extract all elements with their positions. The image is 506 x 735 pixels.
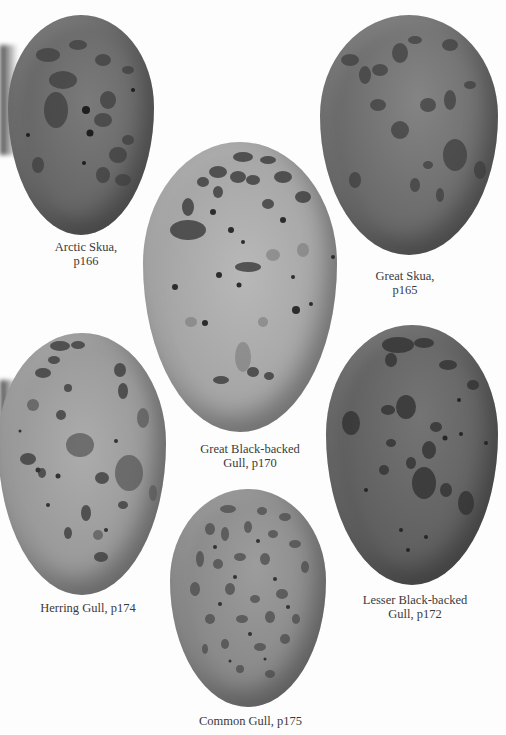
- caption-common-gull: Common Gull, p175: [188, 714, 313, 728]
- egg-great-skua: [320, 15, 498, 255]
- caption-arctic-skua: Arctic Skua, p166: [41, 240, 131, 268]
- caption-line: Gull, p170: [190, 456, 310, 470]
- caption-line: Arctic Skua,: [41, 240, 131, 254]
- caption-line: Common Gull, p175: [188, 714, 313, 728]
- caption-lesser-black-backed-gull: Lesser Black-backed Gull, p172: [350, 593, 480, 621]
- egg-common-gull: [170, 489, 326, 707]
- caption-line: Gull, p172: [350, 607, 480, 621]
- egg-markings: [0, 333, 166, 595]
- egg-lesser-black-backed-gull: [326, 325, 498, 585]
- caption-herring-gull: Herring Gull, p174: [28, 601, 148, 615]
- egg-great-black-backed-gull: [143, 142, 337, 432]
- egg-markings: [170, 489, 326, 707]
- caption-line: Herring Gull, p174: [28, 601, 148, 615]
- egg-markings: [8, 15, 154, 235]
- egg-herring-gull: [0, 333, 166, 595]
- caption-great-skua: Great Skua, p165: [355, 269, 455, 297]
- egg-plate: Arctic Skua, p166 Great Skua, p165: [0, 0, 506, 735]
- caption-line: Lesser Black-backed: [350, 593, 480, 607]
- egg-markings: [143, 142, 337, 432]
- egg-markings: [326, 325, 498, 585]
- caption-line: Great Skua,: [355, 269, 455, 283]
- egg-arctic-skua: [8, 15, 154, 235]
- caption-line: Great Black-backed: [190, 442, 310, 456]
- caption-line: p166: [41, 254, 131, 268]
- caption-line: p165: [355, 283, 455, 297]
- caption-great-black-backed-gull: Great Black-backed Gull, p170: [190, 442, 310, 470]
- egg-markings: [320, 15, 498, 255]
